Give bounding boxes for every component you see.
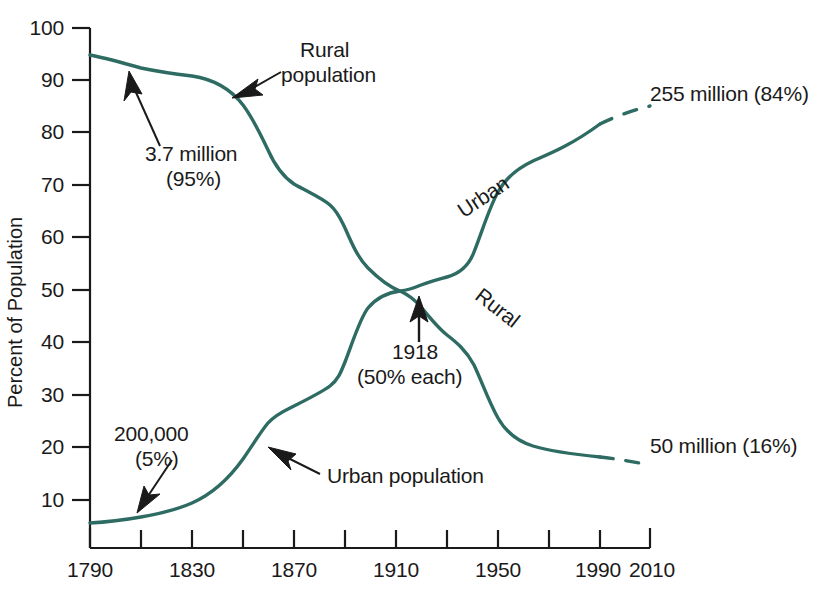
annotation-rural-start-line2: (95%) [166, 167, 221, 191]
population-line-chart: 100 90 80 70 60 50 40 30 20 10 Percent o… [0, 0, 819, 612]
annotation-rural-series-line1: Rural [300, 38, 349, 62]
arrowhead-rural-start [124, 71, 142, 101]
y-tick-label-100: 100 [4, 16, 64, 40]
x-axis-ticks [90, 528, 650, 548]
rural-population-curve [90, 55, 600, 457]
x-tick-label-1830: 1830 [152, 558, 232, 582]
arrowhead-urban-label [268, 447, 296, 470]
x-tick-label-1950: 1950 [458, 558, 538, 582]
annotation-crossover-split: (50% each) [357, 365, 462, 389]
leader-urban-label [288, 458, 320, 474]
annotation-rural-start-line1: 3.7 million [145, 142, 237, 166]
y-tick-label-70: 70 [4, 173, 64, 197]
leader-rural-start [134, 88, 160, 146]
rural-population-curve-projected [600, 457, 650, 465]
y-axis-ticks [72, 28, 90, 500]
y-tick-label-80: 80 [4, 120, 64, 144]
x-tick-label-2010: 2010 [612, 558, 692, 582]
annotation-urban-series-label: Urban population [327, 464, 484, 488]
arrowhead-urban-start [137, 486, 160, 513]
annotation-urban-start-line2: (5%) [135, 447, 179, 471]
y-tick-label-90: 90 [4, 68, 64, 92]
x-tick-label-1870: 1870 [254, 558, 334, 582]
annotation-rural-series-line2: population [281, 63, 376, 87]
annotation-urban-start-line1: 200,000 [114, 422, 189, 446]
y-axis-title: Percent of Population [4, 217, 26, 408]
annotation-rural-end: 50 million (16%) [650, 434, 797, 458]
y-tick-label-20: 20 [4, 435, 64, 459]
x-tick-label-1790: 1790 [50, 558, 130, 582]
urban-population-curve-projected [600, 106, 650, 124]
y-tick-label-10: 10 [4, 488, 64, 512]
annotation-urban-end: 255 million (84%) [650, 82, 809, 106]
x-tick-label-1910: 1910 [356, 558, 436, 582]
arrowhead-rural-label [232, 79, 263, 98]
annotation-crossover-year: 1918 [392, 340, 438, 364]
